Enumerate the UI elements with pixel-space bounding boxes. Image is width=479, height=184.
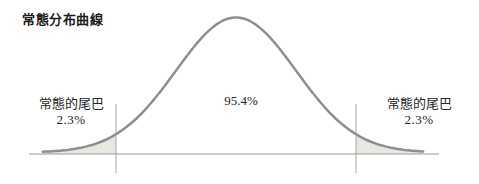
left-tail-value: 2.3%	[25, 112, 117, 128]
left-tail-annotation: 常態的尾巴 2.3%	[25, 96, 117, 128]
right-tail-value: 2.3%	[373, 112, 465, 128]
chart-title: 常態分布曲線	[22, 9, 103, 28]
left-tail-label: 常態的尾巴	[25, 96, 117, 112]
right-tail-annotation: 常態的尾巴 2.3%	[373, 96, 465, 128]
bell-curve-line	[43, 18, 423, 152]
center-region-value: 95.4%	[209, 93, 273, 109]
normal-distribution-figure: 常態分布曲線 常態的尾巴 2.3% 95.4% 常態的尾巴 2.3%	[0, 0, 479, 184]
right-tail-label: 常態的尾巴	[373, 96, 465, 112]
